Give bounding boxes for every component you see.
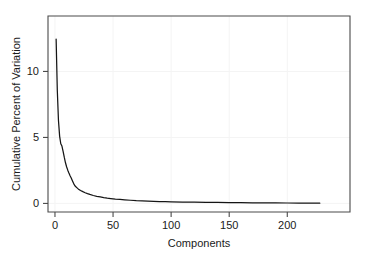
x-tick-label: 100 [162, 219, 180, 231]
scree-plot-figure: 050100150200 0510 Components Cumulative … [0, 0, 366, 258]
y-axis-title: Cumulative Percent of Variation [10, 37, 22, 191]
chart-canvas: 050100150200 0510 Components Cumulative … [0, 0, 366, 258]
x-tick-label: 50 [107, 219, 119, 231]
y-tick-label: 0 [33, 197, 39, 209]
x-tick-label: 200 [278, 219, 296, 231]
x-tick-label: 0 [52, 219, 58, 231]
y-tick-label: 10 [27, 65, 39, 77]
x-axis-title: Components [168, 237, 231, 249]
x-tick-label: 150 [220, 219, 238, 231]
y-tick-label: 5 [33, 131, 39, 143]
